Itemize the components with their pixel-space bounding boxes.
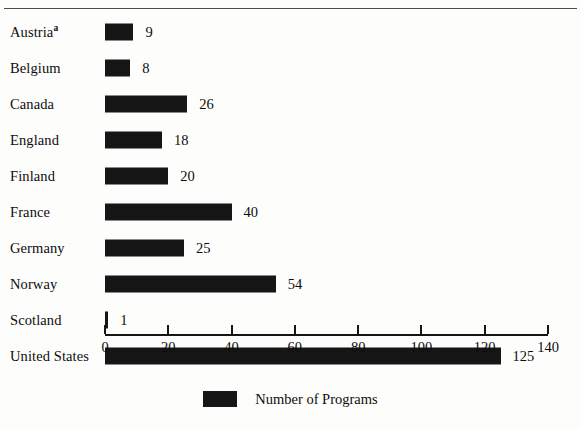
bar-value-belgium: 8 bbox=[142, 61, 149, 76]
bar-row: Germany25 bbox=[0, 230, 581, 266]
bar-value-finland: 20 bbox=[180, 169, 195, 184]
plot-area: Austriaa9Belgium8Canada26England18Finlan… bbox=[0, 14, 581, 344]
x-tick-label-120: 120 bbox=[474, 340, 496, 355]
category-label-united-states: United States bbox=[10, 349, 89, 364]
bar-value-austria: 9 bbox=[145, 25, 152, 40]
x-axis-line bbox=[105, 334, 548, 336]
x-tick-140 bbox=[547, 325, 549, 334]
bar-value-france: 40 bbox=[244, 205, 259, 220]
category-label-germany: Germany bbox=[10, 241, 65, 256]
bar-value-united-states: 125 bbox=[513, 349, 535, 364]
bar-value-canada: 26 bbox=[199, 97, 214, 112]
x-tick-label-60: 60 bbox=[288, 340, 303, 355]
category-footnote-marker: a bbox=[53, 23, 58, 33]
x-tick-label-40: 40 bbox=[224, 340, 239, 355]
category-label-scotland: Scotland bbox=[10, 313, 62, 328]
page-top-rule bbox=[4, 8, 577, 9]
category-label-belgium: Belgium bbox=[10, 61, 61, 76]
bar-value-germany: 25 bbox=[196, 241, 211, 256]
bar-belgium bbox=[105, 60, 130, 77]
bar-value-scotland: 1 bbox=[120, 313, 127, 328]
chart-legend: Number of Programs bbox=[0, 386, 581, 412]
x-tick-0 bbox=[104, 325, 106, 334]
bar-row: Austriaa9 bbox=[0, 14, 581, 50]
x-tick-20 bbox=[167, 325, 169, 334]
x-tick-80 bbox=[357, 325, 359, 334]
bar-finland bbox=[105, 168, 168, 185]
x-tick-label-20: 20 bbox=[161, 340, 176, 355]
bar-row: England18 bbox=[0, 122, 581, 158]
x-tick-120 bbox=[484, 325, 486, 334]
x-tick-label-140: 140 bbox=[537, 340, 559, 355]
bar-value-norway: 54 bbox=[288, 277, 303, 292]
bar-norway bbox=[105, 276, 276, 293]
bar-chart-figure: Austriaa9Belgium8Canada26England18Finlan… bbox=[0, 0, 581, 429]
category-label-england: England bbox=[10, 133, 59, 148]
bar-value-england: 18 bbox=[174, 133, 189, 148]
x-tick-60 bbox=[294, 325, 296, 334]
bar-canada bbox=[105, 96, 187, 113]
category-label-canada: Canada bbox=[10, 97, 54, 112]
legend-label-number-of-programs: Number of Programs bbox=[255, 392, 377, 407]
x-axis: 020406080100120140 bbox=[105, 334, 548, 335]
category-label-austria: Austriaa bbox=[10, 25, 58, 40]
bar-france bbox=[105, 204, 232, 221]
legend-swatch-number-of-programs bbox=[203, 391, 237, 407]
bar-england bbox=[105, 132, 162, 149]
category-label-finland: Finland bbox=[10, 169, 55, 184]
bar-row: Norway54 bbox=[0, 266, 581, 302]
x-tick-label-100: 100 bbox=[411, 340, 433, 355]
bar-germany bbox=[105, 240, 184, 257]
x-tick-40 bbox=[231, 325, 233, 334]
x-tick-label-80: 80 bbox=[351, 340, 366, 355]
x-tick-100 bbox=[420, 325, 422, 334]
bar-row: France40 bbox=[0, 194, 581, 230]
category-label-norway: Norway bbox=[10, 277, 57, 292]
bar-row: Finland20 bbox=[0, 158, 581, 194]
bar-row: Scotland1 bbox=[0, 302, 581, 338]
category-label-france: France bbox=[10, 205, 50, 220]
bar-row: Canada26 bbox=[0, 86, 581, 122]
bar-row: Belgium8 bbox=[0, 50, 581, 86]
bar-austria bbox=[105, 24, 133, 41]
x-tick-label-0: 0 bbox=[101, 340, 108, 355]
